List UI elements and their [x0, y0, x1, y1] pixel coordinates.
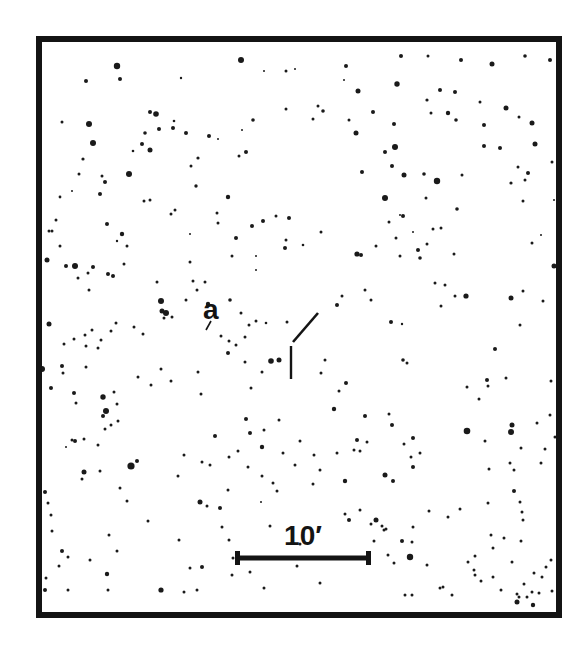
star-finder-chart: a 10′	[0, 0, 586, 658]
comparison-star-label-a: a	[203, 296, 219, 324]
scale-bar-label: 10′	[263, 522, 343, 550]
